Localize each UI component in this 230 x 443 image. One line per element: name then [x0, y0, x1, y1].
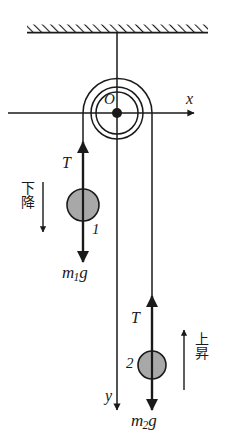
mass-2-index-label: 2	[126, 356, 134, 371]
body-2-group	[138, 296, 184, 410]
weight-label-body-2: m2g	[131, 412, 157, 432]
tension-label-body-2: T	[131, 310, 140, 326]
pulley-center-label: O	[104, 92, 115, 107]
mass-1-index-label: 1	[92, 222, 100, 237]
weight-1-m: m	[62, 263, 74, 282]
physics-diagram-canvas: O x y T 1 m1g 下降 T 2 m2g 上昇	[0, 0, 230, 443]
x-axis-label: x	[186, 91, 193, 107]
body-1-group	[43, 142, 99, 262]
ceiling-hatching	[27, 25, 208, 33]
y-axis-label: y	[105, 388, 112, 404]
weight-1-g: g	[79, 263, 88, 282]
tension-label-body-1: T	[62, 155, 71, 171]
motion-label-body-2: 上昇	[192, 332, 210, 360]
ceiling-support	[27, 25, 208, 33]
weight-2-m: m	[131, 411, 143, 430]
weight-label-body-1: m1g	[62, 264, 88, 284]
motion-label-body-1: 下降	[18, 181, 36, 209]
weight-2-g: g	[148, 411, 157, 430]
diagram-vector-layer	[0, 0, 230, 443]
